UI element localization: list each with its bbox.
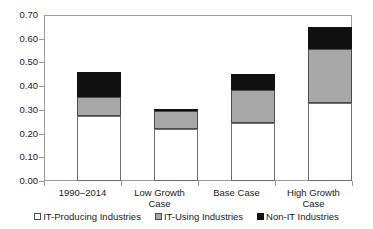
bar-segment-non-it [77, 72, 121, 97]
x-label-line1: High Growth [275, 187, 352, 198]
bar-group-1990-2014 [77, 72, 121, 181]
y-tick-label: 0.60 [0, 34, 38, 44]
bars-layer [44, 15, 352, 181]
x-axis-label-1990-2014: 1990–2014 [44, 187, 121, 198]
bar-segment-it-using [231, 90, 275, 123]
y-tick-label: 0.50 [0, 57, 38, 67]
bar-segment-non-it [231, 74, 275, 89]
bar-group-base-case [231, 74, 275, 181]
legend-label: IT-Producing Industries [43, 211, 141, 222]
legend-swatch-white-icon [34, 213, 41, 220]
y-axis: 0.70 0.60 0.50 0.40 0.30 0.20 0.10 0.00 [0, 15, 38, 181]
x-label-line1: 1990–2014 [44, 187, 121, 198]
legend-label: IT-Using Industries [164, 211, 243, 222]
legend-swatch-gray-icon [155, 213, 162, 220]
y-tick-label: 0.10 [0, 152, 38, 162]
bar-segment-non-it [308, 27, 352, 50]
x-axis-label-base-case: Base Case [198, 187, 275, 198]
y-tick-label: 0.30 [0, 105, 38, 115]
bar-segment-it-using [308, 49, 352, 102]
x-tick-mark [275, 181, 276, 186]
x-tick-mark [44, 181, 45, 186]
bar-segment-it-producing [308, 103, 352, 181]
x-label-line1: Low Growth [121, 187, 198, 198]
x-axis-label-high-growth-case: High Growth Case [275, 187, 352, 209]
y-tick-label: 0.70 [0, 10, 38, 20]
stacked-bar-chart: 0.70 0.60 0.50 0.40 0.30 0.20 0.10 0.00 [0, 0, 373, 229]
x-tick-mark [198, 181, 199, 186]
bar-group-low-growth-case [154, 110, 198, 181]
x-axis-label-low-growth-case: Low Growth Case [121, 187, 198, 209]
x-label-line1: Base Case [198, 187, 275, 198]
bar-segment-non-it [154, 109, 198, 111]
legend-item-it-using: IT-Using Industries [155, 211, 243, 222]
bar-group-high-growth-case [308, 27, 352, 181]
legend-swatch-black-icon [257, 213, 264, 220]
chart-legend: IT-Producing Industries IT-Using Industr… [0, 208, 373, 224]
legend-item-it-producing: IT-Producing Industries [34, 211, 141, 222]
y-tick-label: 0.00 [0, 176, 38, 186]
bar-segment-it-producing [154, 129, 198, 181]
bar-segment-it-using [77, 97, 121, 116]
y-tick-label: 0.20 [0, 129, 38, 139]
legend-label: Non-IT Industries [266, 211, 339, 222]
bar-segment-it-producing [77, 116, 121, 181]
x-tick-mark [352, 181, 353, 186]
y-tick-label: 0.40 [0, 81, 38, 91]
bar-segment-it-using [154, 111, 198, 129]
bar-segment-it-producing [231, 123, 275, 181]
legend-item-non-it: Non-IT Industries [257, 211, 339, 222]
x-tick-mark [121, 181, 122, 186]
